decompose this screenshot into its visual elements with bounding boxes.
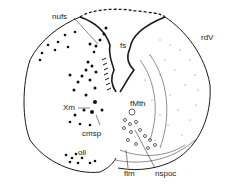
label-nspoc: nspoc xyxy=(155,170,176,178)
label-fs: fs xyxy=(120,42,126,50)
label-rdV: rdV xyxy=(201,34,213,42)
leader-lines xyxy=(74,18,155,168)
ventricle-roof-dashed xyxy=(80,9,165,17)
brainstem-diagram xyxy=(0,0,228,190)
label-oli: oli xyxy=(78,149,86,157)
left-half-outline xyxy=(24,17,116,172)
fiber-lines xyxy=(115,55,195,162)
label-nufs: nufs xyxy=(52,13,67,21)
fs-contour xyxy=(120,17,165,92)
nuclei-dots xyxy=(39,27,108,165)
right-half-outline xyxy=(118,17,210,170)
label-cmsp: cmsp xyxy=(82,130,101,138)
label-fMth: fMth xyxy=(130,100,146,108)
dorsal-contour xyxy=(80,17,116,92)
open-circles xyxy=(123,109,157,150)
label-Xm: Xm xyxy=(63,104,75,112)
rdV-stipple xyxy=(145,40,199,141)
label-flm: flm xyxy=(124,170,135,178)
midline-ticks xyxy=(102,58,111,90)
